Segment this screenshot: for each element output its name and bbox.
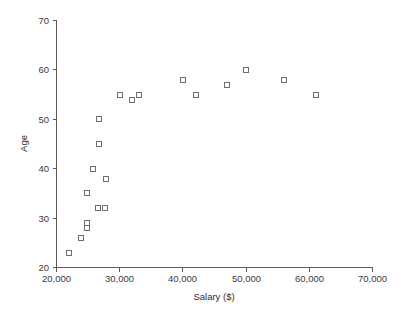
data-point xyxy=(181,78,186,83)
data-point xyxy=(79,236,84,241)
data-point xyxy=(225,83,230,88)
data-point xyxy=(314,93,319,98)
data-point xyxy=(137,93,142,98)
y-tick-label: 50 xyxy=(38,114,49,125)
x-tick-label: 30,000 xyxy=(105,273,134,284)
data-point xyxy=(104,177,109,182)
y-tick-label: 20 xyxy=(38,262,49,273)
axes-group xyxy=(57,21,373,268)
data-point xyxy=(85,226,90,231)
data-point xyxy=(194,93,199,98)
plot-svg: 203040506070 20,00030,00040,00050,00060,… xyxy=(0,0,408,313)
data-point xyxy=(67,251,72,256)
y-axis-ticks: 203040506070 xyxy=(38,15,56,273)
data-point xyxy=(103,206,108,211)
x-tick-label: 60,000 xyxy=(295,273,324,284)
data-point xyxy=(244,68,249,73)
x-tick-label: 40,000 xyxy=(168,273,197,284)
y-tick-label: 70 xyxy=(38,15,49,26)
x-tick-label: 70,000 xyxy=(358,273,387,284)
data-point xyxy=(85,221,90,226)
data-points-group xyxy=(67,68,319,256)
data-point xyxy=(97,117,102,122)
x-tick-label: 50,000 xyxy=(232,273,261,284)
data-point xyxy=(130,98,135,103)
x-axis-ticks: 20,00030,00040,00050,00060,00070,000 xyxy=(42,268,387,285)
y-tick-label: 30 xyxy=(38,213,49,224)
data-point xyxy=(282,78,287,83)
data-point xyxy=(97,142,102,147)
data-point xyxy=(96,206,101,211)
data-point xyxy=(118,93,123,98)
y-tick-label: 40 xyxy=(38,163,49,174)
data-point xyxy=(91,167,96,172)
y-tick-label: 60 xyxy=(38,64,49,75)
scatter-chart: 203040506070 20,00030,00040,00050,00060,… xyxy=(0,0,408,313)
x-tick-label: 20,000 xyxy=(42,273,71,284)
data-point xyxy=(85,191,90,196)
y-axis-title: Age xyxy=(18,135,29,152)
x-axis-title: Salary ($) xyxy=(193,291,234,302)
